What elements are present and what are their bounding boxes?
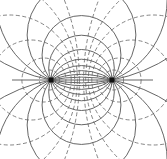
charge-point xyxy=(49,78,54,83)
dipole-field-diagram xyxy=(0,0,167,159)
charge-point xyxy=(110,78,115,83)
